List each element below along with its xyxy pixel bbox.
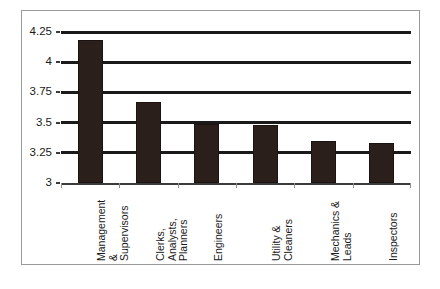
y-axis-label-3-25: 3.25 [30, 147, 52, 159]
x-axis-label-text: Utility & Cleaners [271, 189, 294, 261]
x-axis-label-text: Clerks, Analysts, Planners [155, 189, 190, 261]
y-axis-tick-mark [56, 91, 60, 93]
y-axis-tick-mark [56, 61, 60, 63]
x-axis-tick-mark [353, 183, 354, 188]
y-axis-tick-mark [56, 152, 60, 154]
x-axis-tick-mark [119, 183, 120, 188]
bar [369, 143, 394, 183]
x-axis-tick-mark [294, 183, 295, 188]
x-axis-label-text: Engineers [213, 189, 225, 261]
y-axis-label-3-75: 3.75 [30, 87, 52, 99]
plot-area: 33.253.53.7544.25 [61, 32, 411, 183]
bar [311, 141, 336, 183]
x-axis-label-text: Inspectors [388, 189, 400, 261]
x-axis-tick-mark [178, 183, 179, 188]
y-axis-tick-mark [56, 182, 60, 184]
bar [194, 124, 219, 183]
x-axis-tick-mark [410, 183, 411, 188]
x-axis-tick-mark [236, 183, 237, 188]
x-axis-label-text: Management & Supervisors [96, 189, 131, 261]
y-axis-tick-mark [56, 31, 60, 33]
chart-figure: 33.253.53.7544.25 Management & Superviso… [0, 0, 440, 289]
bars-group [61, 32, 411, 183]
y-axis-label-3: 3 [46, 177, 52, 189]
y-axis-label-4-25: 4.25 [30, 26, 52, 38]
x-axis-category-labels: Management & SupervisorsClerks, Analysts… [61, 189, 411, 261]
bar [136, 102, 161, 183]
bar [253, 125, 278, 183]
bar [78, 40, 103, 183]
y-axis-label-4: 4 [46, 56, 52, 68]
y-axis-tick-mark [56, 122, 60, 124]
y-axis-label-3-5: 3.5 [36, 117, 52, 129]
x-axis-tick-mark [61, 183, 62, 188]
chart-frame: 33.253.53.7544.25 Management & Superviso… [21, 10, 420, 265]
x-axis-label-text: Mechanics & Leads [330, 189, 353, 261]
